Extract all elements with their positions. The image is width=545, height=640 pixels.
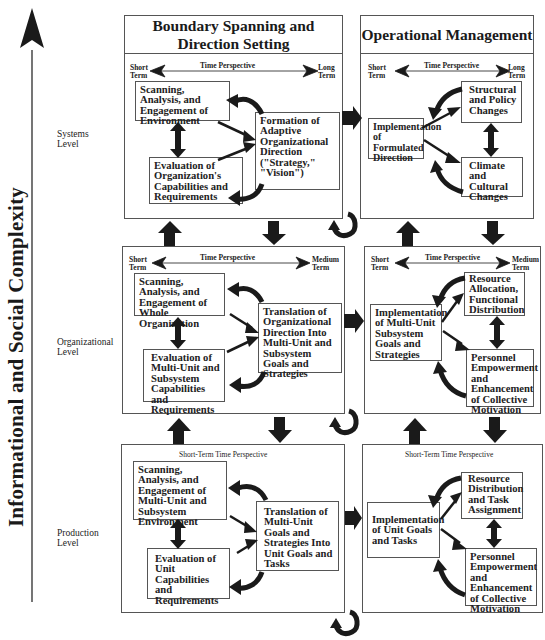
level-label-line: Level bbox=[57, 538, 99, 548]
cycle-arrow-icon bbox=[329, 411, 356, 433]
box-personnel-empowerment-prod: Personnel Empowerment and Enhancement of… bbox=[465, 548, 537, 606]
tp-end: MediumTerm bbox=[512, 256, 539, 272]
tp-text: Term bbox=[371, 264, 389, 272]
tp-text: Term bbox=[318, 72, 335, 80]
level-label-organizational: Organizational Level bbox=[57, 337, 113, 357]
level-label-production: Production Level bbox=[57, 528, 99, 548]
box-personnel-empowerment-org: Personnel Empowerment and Enhancement of… bbox=[466, 349, 534, 407]
column-title-operational: Operational Management bbox=[361, 16, 533, 54]
tp-start: ShortTerm bbox=[130, 64, 148, 80]
cycle-arrow-icon bbox=[330, 612, 357, 634]
tp-text: Term bbox=[368, 72, 386, 80]
level-label-line: Level bbox=[57, 139, 89, 149]
level-label-line: Production bbox=[57, 528, 99, 538]
tp-text: Term bbox=[512, 264, 539, 272]
tp-text: Term bbox=[312, 264, 339, 272]
box-implementation-systems: Implementation of Formulated Direction bbox=[368, 118, 424, 159]
box-formation-direction: Formation of Adaptive Organizational Dir… bbox=[255, 112, 340, 190]
box-evaluation-production: Evaluation of Unit Capabilities and Requ… bbox=[147, 548, 230, 599]
box-resource-allocation: Resource Allocation, Functional Distribu… bbox=[464, 272, 525, 316]
level-label-line: Level bbox=[57, 347, 113, 357]
tp-title: Time Perspective bbox=[200, 62, 255, 70]
tp-end: MediumTerm bbox=[312, 256, 339, 272]
tp-text: Term bbox=[508, 72, 525, 80]
box-scanning-organizational: Scanning, Analysis, and Engagement of Wh… bbox=[134, 273, 225, 316]
box-scanning-systems: Scanning, Analysis, and Engagement of En… bbox=[135, 81, 230, 121]
tp-start: ShortTerm bbox=[368, 64, 386, 80]
tp-title: Time Perspective bbox=[424, 62, 479, 70]
box-structural-policy: Structural and Policy Changes bbox=[461, 81, 522, 123]
tp-start: ShortTerm bbox=[129, 256, 147, 272]
box-evaluation-systems: Evaluation of Organization's Capabilitie… bbox=[149, 157, 243, 204]
box-evaluation-organizational: Evaluation of Multi-Unit and Subsystem C… bbox=[143, 349, 225, 402]
tp-title: Short-Term Time Perspective bbox=[405, 451, 493, 459]
tp-title: Time Perspective bbox=[425, 254, 480, 262]
tp-title: Time Perspective bbox=[200, 254, 255, 262]
box-implementation-organizational: Implementation of Multi-Unit Subsystem G… bbox=[370, 304, 442, 361]
tp-start: ShortTerm bbox=[371, 256, 389, 272]
box-resource-distribution: Resource Distribution and Task Assignmen… bbox=[461, 472, 523, 519]
level-label-line: Organizational bbox=[57, 337, 113, 347]
box-climate-cultural: Climate and Cultural Changes bbox=[461, 157, 523, 197]
axis-label: Informational and Social Complexity bbox=[4, 187, 29, 527]
box-translation-organizational: Translation of Organizational Direction … bbox=[258, 303, 342, 373]
level-label-systems: Systems Level bbox=[57, 129, 89, 149]
tp-text: Term bbox=[130, 72, 148, 80]
box-implementation-production: Implementation of Unit Goals and Tasks bbox=[367, 502, 440, 558]
box-translation-production: Translation of Multi-Unit Goals and Stra… bbox=[256, 501, 339, 571]
tp-end: LongTerm bbox=[508, 64, 525, 80]
tp-end: LongTerm bbox=[318, 64, 335, 80]
box-scanning-production: Scanning, Analysis, and Engagement of Mu… bbox=[133, 461, 227, 520]
tp-title: Short-Term Time Perspective bbox=[179, 451, 267, 459]
tp-text: Term bbox=[129, 264, 147, 272]
column-title-boundary: Boundary Spanning and Direction Setting bbox=[125, 16, 342, 54]
level-label-line: Systems bbox=[57, 129, 89, 139]
